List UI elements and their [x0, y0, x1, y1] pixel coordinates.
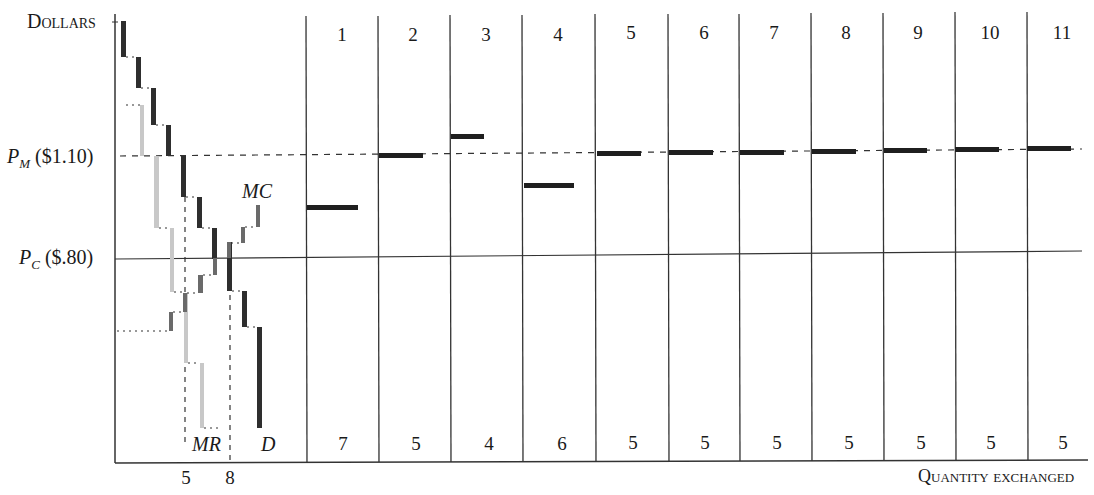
pm-label: PM ($1.10) [7, 145, 93, 172]
period-label-7: 7 [754, 22, 794, 44]
period-quantity-1: 7 [323, 433, 363, 455]
period-quantity-4: 6 [542, 433, 582, 455]
period-label-3: 3 [466, 24, 506, 46]
y-axis-label: Dollars [27, 10, 96, 33]
demand-step-dots [126, 57, 257, 327]
pc-solid-line [115, 251, 1082, 259]
period-label-2: 2 [393, 24, 433, 46]
period-price-bars [307, 134, 1071, 210]
mr-curve [140, 105, 204, 428]
x-tick-8: 8 [210, 467, 250, 489]
period-label-1: 1 [322, 24, 362, 46]
period-quantity-3: 4 [469, 433, 509, 455]
period-label-9: 9 [898, 22, 938, 44]
pc-label-value: ($.80) [45, 246, 93, 268]
period-quantity-8: 5 [829, 432, 869, 454]
period-5-price-bar [597, 151, 641, 156]
chart-graphics [0, 0, 1094, 495]
pc-label-main: P [19, 246, 31, 268]
x-axis [115, 460, 1088, 463]
period-quantity-5: 5 [613, 432, 653, 454]
period-3-price-bar [451, 134, 484, 139]
period-11-price-bar [1027, 146, 1071, 151]
period-label-8: 8 [826, 22, 866, 44]
period-label-6: 6 [684, 22, 724, 44]
period-label-5: 5 [611, 22, 651, 44]
period-quantity-9: 5 [901, 432, 941, 454]
period-dividers [306, 12, 1028, 463]
period-label-4: 4 [538, 24, 578, 46]
period-6-price-bar [669, 150, 713, 155]
period-8-price-bar [812, 149, 856, 154]
mr-label: MR [192, 433, 221, 456]
period-1-price-bar [307, 205, 358, 210]
mc-label: MC [242, 180, 272, 203]
pm-label-main: P [7, 145, 19, 167]
period-quantity-6: 5 [685, 432, 725, 454]
period-quantity-11: 5 [1043, 432, 1083, 454]
d-label: D [261, 433, 275, 456]
pm-label-value: ($1.10) [35, 145, 93, 167]
pm-label-sub: M [19, 156, 30, 171]
x-axis-label: Quantity exchanged [918, 466, 1074, 487]
period-9-price-bar [884, 148, 927, 153]
period-label-11: 11 [1042, 22, 1082, 44]
period-quantity-10: 5 [971, 432, 1011, 454]
x-tick-5: 5 [166, 467, 206, 489]
period-10-price-bar [955, 147, 999, 152]
period-2-price-bar [379, 153, 423, 158]
period-label-10: 10 [970, 22, 1010, 44]
period-quantity-2: 5 [396, 433, 436, 455]
pc-label: PC ($.80) [19, 246, 93, 273]
period-quantity-7: 5 [757, 432, 797, 454]
demand-curve [121, 21, 262, 428]
period-7-price-bar [740, 150, 784, 155]
period-4-price-bar [524, 183, 574, 188]
pc-label-sub: C [31, 257, 40, 272]
